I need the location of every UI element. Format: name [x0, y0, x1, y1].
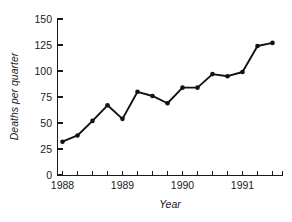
data-point [90, 119, 95, 124]
data-point [180, 85, 185, 90]
data-point [195, 85, 200, 90]
x-tick-label: 1988 [51, 179, 75, 191]
plot-background [57, 18, 283, 175]
data-point [225, 74, 230, 79]
x-axis-tick-labels: 1988 1989 1990 1991 [51, 179, 255, 191]
x-tick-label: 1990 [171, 179, 195, 191]
y-axis-tick-labels: 150 125 100 75 50 25 0 [34, 13, 52, 181]
line-chart-svg: 150 125 100 75 50 25 0 [0, 0, 292, 222]
y-tick-label: 150 [34, 13, 52, 25]
y-tick-label: 125 [34, 39, 52, 51]
y-tick-label: 50 [40, 117, 52, 129]
y-axis-title: Deaths per quarter [8, 52, 20, 140]
x-tick-label: 1989 [111, 179, 135, 191]
data-point [210, 72, 215, 77]
data-point [270, 41, 275, 46]
x-axis-title: Year [159, 198, 181, 210]
data-point [60, 139, 65, 144]
data-point [165, 101, 170, 106]
data-point [135, 90, 140, 95]
y-tick-label: 75 [40, 91, 52, 103]
chart-figure: 150 125 100 75 50 25 0 [0, 0, 292, 222]
y-tick-label: 25 [40, 143, 52, 155]
data-point [120, 117, 125, 122]
y-tick-label: 100 [34, 65, 52, 77]
data-point [240, 70, 245, 75]
data-point [150, 94, 155, 99]
data-point [255, 44, 260, 49]
x-tick-label: 1991 [231, 179, 255, 191]
data-point [105, 103, 110, 108]
data-point [75, 133, 80, 138]
